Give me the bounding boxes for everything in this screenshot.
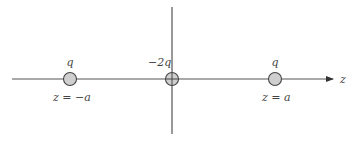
- charge-left: q z = −a: [52, 56, 91, 104]
- charge-diagram: z q z = −a −2q q z = a: [0, 0, 355, 143]
- charge-right-circle: [269, 73, 282, 86]
- z-axis-label: z: [339, 73, 346, 86]
- charge-right-value: q: [272, 56, 279, 69]
- charge-left-value: q: [67, 56, 74, 69]
- charge-right-position: z = a: [261, 91, 291, 104]
- charge-left-circle: [64, 73, 77, 86]
- charge-center-value: −2q: [148, 56, 171, 69]
- charge-left-position: z = −a: [52, 91, 91, 104]
- charge-center: −2q: [148, 56, 179, 86]
- charge-right: q z = a: [261, 56, 291, 104]
